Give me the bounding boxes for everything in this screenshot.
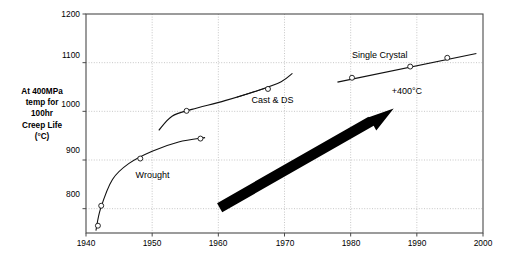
- data-point-marker: [265, 86, 270, 91]
- creep-life-chart: At 400MPatemp for100hrCreep Life(°C) 120…: [0, 0, 513, 264]
- plot-area: [0, 0, 513, 264]
- data-point-marker: [408, 64, 413, 69]
- data-point-marker: [349, 75, 354, 80]
- series-leader-line-cast-ds: [237, 88, 265, 97]
- data-point-marker: [184, 108, 189, 113]
- data-point-marker: [138, 156, 143, 161]
- data-point-marker: [198, 136, 203, 141]
- data-point-marker: [99, 203, 104, 208]
- series-curve-wrought: [96, 138, 205, 231]
- data-point-marker: [95, 223, 100, 228]
- data-point-marker: [445, 55, 450, 60]
- series-trendline-single-crystal: [337, 53, 476, 82]
- series-curve-cast-ds: [159, 73, 293, 130]
